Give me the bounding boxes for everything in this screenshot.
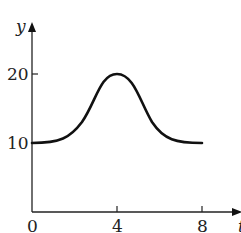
y-axis-arrow-icon — [28, 22, 36, 32]
x-tick-label-4: 4 — [112, 216, 123, 233]
x-tick-label-0: 0 — [27, 216, 38, 233]
x-axis-label: t — [238, 216, 241, 233]
y-tick-label-20: 20 — [7, 64, 29, 84]
chart: y t 20 10 0 4 8 — [0, 0, 241, 233]
data-curve — [32, 74, 202, 143]
y-tick-label-10: 10 — [7, 133, 29, 153]
x-axis-arrow-icon — [232, 208, 241, 216]
y-axis-label: y — [15, 16, 26, 36]
x-tick-label-8: 8 — [197, 216, 208, 233]
